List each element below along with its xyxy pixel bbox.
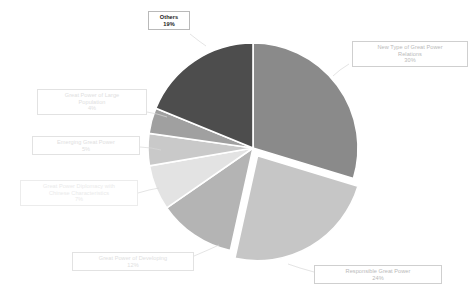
callout-great-power-of-developing: Great Power of Developing 12% [72, 252, 194, 271]
callout-title-line2: Relations [355, 51, 465, 58]
callout-percent: 4% [40, 105, 144, 112]
callout-title-line2: Chinese Characteristics [23, 190, 135, 197]
callout-title-line1: New Type of Great Power [355, 44, 465, 51]
pie-chart: New Type of Great Power Relations 30% Ot… [0, 0, 472, 295]
callout-emerging-great-power: Emerging Great Power 5% [32, 136, 140, 155]
callout-percent: 7% [23, 196, 135, 203]
callout-title-line1: Responsible Great Power [317, 268, 439, 275]
callout-others: Others 19% [148, 11, 190, 30]
callout-responsible-great-power: Responsible Great Power 24% [314, 265, 442, 284]
callout-title-line1: Great Power of Large [40, 92, 144, 99]
pie-slice [253, 43, 358, 179]
leader-line-others [190, 34, 206, 46]
callout-great-power-diplomacy-chinese-characteristics: Great Power Diplomacy with Chinese Chara… [20, 180, 138, 206]
leader-line-diplomacy [138, 188, 159, 193]
callout-percent: 30% [355, 57, 465, 64]
callout-title-line1: Great Power Diplomacy with [23, 183, 135, 190]
pie-slices-group [148, 43, 358, 261]
callout-title-line2: Population [40, 99, 144, 106]
leader-line-new-type [333, 64, 349, 76]
callout-title-line1: Emerging Great Power [35, 139, 137, 146]
callout-great-power-of-large-population: Great Power of Large Population 4% [37, 89, 147, 115]
leader-line-responsible [288, 264, 314, 272]
callout-percent: 24% [317, 275, 439, 282]
callout-new-type-of-great-power-relations: New Type of Great Power Relations 30% [352, 41, 468, 67]
callout-title-line1: Great Power of Developing [75, 255, 191, 262]
callout-title-line1: Others [151, 14, 187, 21]
callout-percent: 5% [35, 146, 137, 153]
leader-line-developing [194, 245, 219, 256]
callout-percent: 19% [151, 21, 187, 28]
callout-percent: 12% [75, 262, 191, 269]
